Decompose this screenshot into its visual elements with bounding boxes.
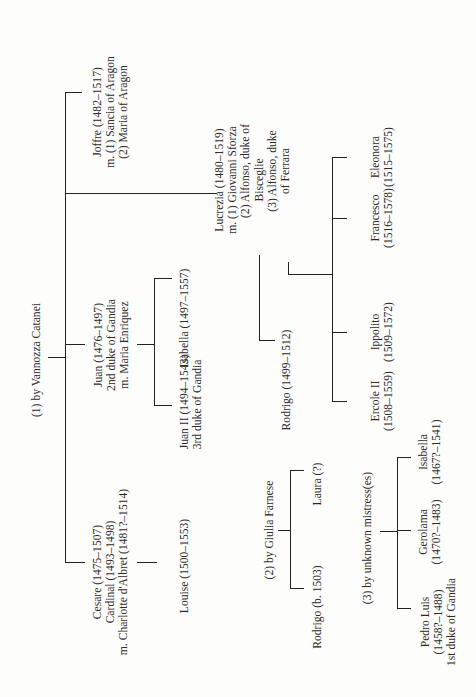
connector-giulia bbox=[278, 530, 290, 531]
mother-vannozza-label: (1) by Vannozza Catanei bbox=[30, 303, 43, 417]
bracket-juan-children bbox=[154, 278, 155, 405]
branch-isabella-unknown bbox=[397, 457, 411, 458]
branch-juan-ii bbox=[154, 405, 172, 406]
branch-joffre bbox=[65, 92, 82, 93]
branch-cesare bbox=[65, 562, 85, 563]
person-ercole: Ercole II (1508–1559) bbox=[369, 371, 395, 431]
person-louise: Louise (1500–1553) bbox=[178, 519, 191, 613]
person-gerolama: Gerolama (1470?–1483) bbox=[417, 499, 443, 564]
person-rodrigo-lucrezia: Rodrigo (1499–1512) bbox=[280, 330, 293, 431]
branch-gerolama bbox=[397, 530, 411, 531]
connector-lucrezia-2 bbox=[259, 255, 260, 340]
person-cesare: Cesare (1475–1507) Cardinal (1493–1498) … bbox=[91, 489, 131, 655]
person-isabella-unknown: Isabella (1467?–1541) bbox=[417, 419, 443, 484]
person-pedro-luis: Pedro Luis (1458?–1488) 1st duke of Gand… bbox=[419, 578, 459, 666]
person-laura: Laura (?) bbox=[311, 463, 324, 506]
person-joffre: Joffre (1482–1517) m. (1) Sancia of Arag… bbox=[91, 56, 131, 168]
bracket-unknown-children bbox=[397, 457, 398, 608]
connector-unknown bbox=[380, 531, 397, 532]
connector-ferrara-mid bbox=[288, 274, 332, 275]
mother-unknown-label: (3) by unknown mistress(es) bbox=[361, 472, 374, 604]
mother-giulia-label: (2) by Giulia Farnese bbox=[263, 481, 276, 580]
connector-juan-children bbox=[137, 344, 154, 345]
person-eleonora: Eleonora (1515–1575) bbox=[369, 127, 395, 187]
branch-rodrigo-lucrezia bbox=[259, 340, 275, 341]
branch-eleonora bbox=[332, 157, 347, 158]
person-lucrezia: Lucrezia (1480–1519) m. (1) Giovanni Sfo… bbox=[213, 124, 292, 236]
branch-isabella-juan bbox=[154, 278, 172, 279]
branch-pedro-luis bbox=[397, 608, 411, 609]
branch-ippolito bbox=[332, 332, 347, 333]
branch-rodrigo-giulia bbox=[290, 588, 304, 589]
branch-ercole bbox=[332, 401, 347, 402]
bracket-ferrara-children bbox=[332, 157, 333, 401]
connector-lucrezia-3 bbox=[288, 262, 289, 274]
person-ippolito: Ippolito (1509–1572) bbox=[369, 302, 395, 362]
bracket-giulia-children bbox=[290, 470, 291, 588]
person-francesco: Francesco (1516–1578) bbox=[369, 188, 395, 248]
person-isabella-juan: Isabella (1497–1557) bbox=[178, 269, 191, 368]
branch-francesco bbox=[332, 218, 347, 219]
trunk-vannozza bbox=[65, 92, 66, 563]
connector-louise bbox=[137, 562, 157, 563]
connector-vannozza bbox=[48, 357, 65, 358]
person-rodrigo-giulia: Rodrigo (b. 1503) bbox=[311, 565, 324, 648]
branch-lucrezia bbox=[65, 193, 217, 194]
branch-juan bbox=[65, 344, 85, 345]
branch-laura bbox=[290, 470, 304, 471]
person-juan: Juan (1476–1497) 2nd duke of Gandia m. M… bbox=[92, 299, 132, 391]
person-juan-ii: Juan II (1494–1543) 3rd duke of Gandia bbox=[178, 355, 204, 450]
